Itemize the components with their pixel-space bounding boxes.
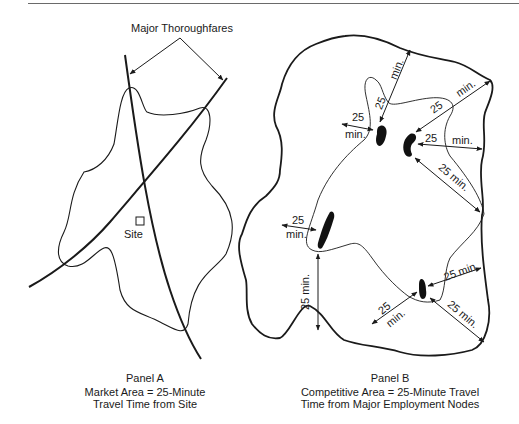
employment-node-3-icon xyxy=(318,211,335,248)
label-node2-east-num: 25 xyxy=(425,132,437,144)
panel-b-caption-line1: Competitive Area = 25-Minute Travel xyxy=(290,386,490,398)
market-area-boundary xyxy=(58,88,232,331)
label-node1-west-num: 25 xyxy=(352,111,364,123)
label-node1-west-min: min. xyxy=(345,128,366,140)
label-node3-west-min: min. xyxy=(286,228,307,240)
panel-a-caption-line1: Market Area = 25-Minute xyxy=(60,386,230,398)
panel-b-title: Panel B xyxy=(290,372,490,384)
label-node3-west-num: 25 xyxy=(292,214,304,226)
panel-a xyxy=(29,38,232,359)
panel-a-caption: Panel A Market Area = 25-Minute Travel T… xyxy=(60,372,230,410)
diagram-canvas xyxy=(0,0,519,424)
callout-arrow-right xyxy=(180,38,223,80)
label-node2-east-min: min. xyxy=(452,134,473,146)
employment-node-2-icon xyxy=(403,134,416,157)
panel-b-caption: Panel B Competitive Area = 25-Minute Tra… xyxy=(290,372,490,410)
panel-a-caption-line2: Travel Time from Site xyxy=(60,398,230,410)
site-label: Site xyxy=(124,228,143,240)
panel-b-caption-line2: Time from Major Employment Nodes xyxy=(290,398,490,410)
callout-arrow-left xyxy=(130,38,180,74)
employment-node-1-icon xyxy=(376,126,387,146)
site-square-icon xyxy=(136,217,144,225)
employment-node-4-icon xyxy=(419,279,426,299)
panel-a-title: Panel A xyxy=(60,372,230,384)
label-node3-south: 25 min. xyxy=(299,274,311,310)
major-thoroughfares-label: Major Thoroughfares xyxy=(131,22,233,34)
